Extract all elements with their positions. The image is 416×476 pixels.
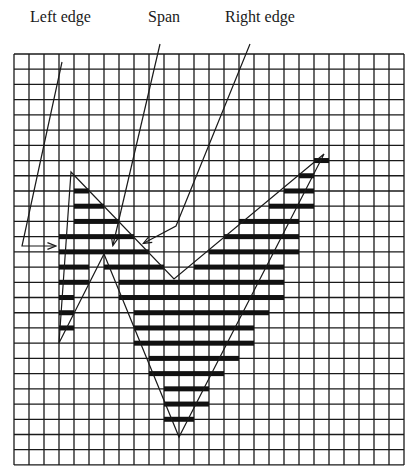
scanline-span xyxy=(209,249,299,254)
scanline-span xyxy=(59,265,89,270)
scanline-span xyxy=(149,356,239,361)
scanline-span xyxy=(59,295,74,300)
scanline-span xyxy=(74,204,104,209)
left-edge-arrow xyxy=(22,62,62,246)
scanline-span xyxy=(194,265,284,270)
scanline-fill-diagram: Left edge Span Right edge xyxy=(0,0,416,476)
span-label: Span xyxy=(148,8,180,26)
scanline-span xyxy=(59,234,134,239)
scanline-span xyxy=(224,234,299,239)
scanline-span xyxy=(134,341,254,346)
scanline-span xyxy=(74,188,89,193)
scanline-span xyxy=(104,265,164,270)
scanline-span xyxy=(164,402,209,407)
right-edge-label: Right edge xyxy=(225,8,295,26)
scanline-span xyxy=(119,295,284,300)
scanline-span xyxy=(134,310,269,315)
scanline-span xyxy=(284,188,314,193)
span-arrow xyxy=(113,44,160,245)
scanline-span xyxy=(74,219,119,224)
right-edge-arrow xyxy=(144,44,250,243)
left-edge-label: Left edge xyxy=(30,8,91,26)
scanline-span xyxy=(269,204,314,209)
